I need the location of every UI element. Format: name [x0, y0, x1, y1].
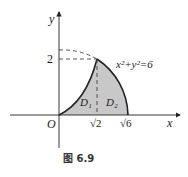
circle-equation: x²+y²=6	[116, 59, 153, 70]
x-tick-sqrt2: √2	[90, 118, 102, 129]
diagram-graphic	[0, 0, 188, 177]
y-tick-2: 2	[47, 53, 53, 65]
region-d2-label: D₂	[106, 97, 118, 108]
circle-arc-dashed	[59, 50, 97, 59]
x-axis-label: x	[167, 117, 172, 129]
y-axis-label: y	[49, 13, 54, 25]
region-d1-label: D₁	[80, 97, 92, 108]
figure: y x O 2 √2 √6 x²+y²=6 D₁ D₂ 图 6.9	[0, 0, 188, 177]
x-tick-sqrt6: √6	[120, 118, 132, 129]
figure-caption: 图 6.9	[63, 154, 94, 164]
origin-label: O	[47, 118, 56, 130]
